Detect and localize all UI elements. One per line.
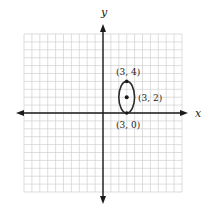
point-bottom (125, 111, 129, 115)
y-axis-label: y (100, 6, 108, 19)
x-axis (16, 110, 188, 116)
coordinate-plane: x y (3, 4) (3, 2) (3, 0) (0, 0, 210, 209)
x-axis-label: x (195, 107, 202, 120)
point-top (125, 80, 129, 84)
y-axis (100, 24, 106, 204)
x-axis-left-arrow-icon (16, 110, 24, 116)
label-bottom-point: (3, 0) (116, 120, 140, 130)
x-axis-right-arrow-icon (180, 110, 188, 116)
label-center-point: (3, 2) (138, 93, 162, 103)
y-axis-top-arrow-icon (100, 24, 106, 32)
y-axis-bottom-arrow-icon (100, 196, 106, 204)
point-center (125, 95, 129, 99)
label-top-point: (3, 4) (116, 67, 140, 77)
